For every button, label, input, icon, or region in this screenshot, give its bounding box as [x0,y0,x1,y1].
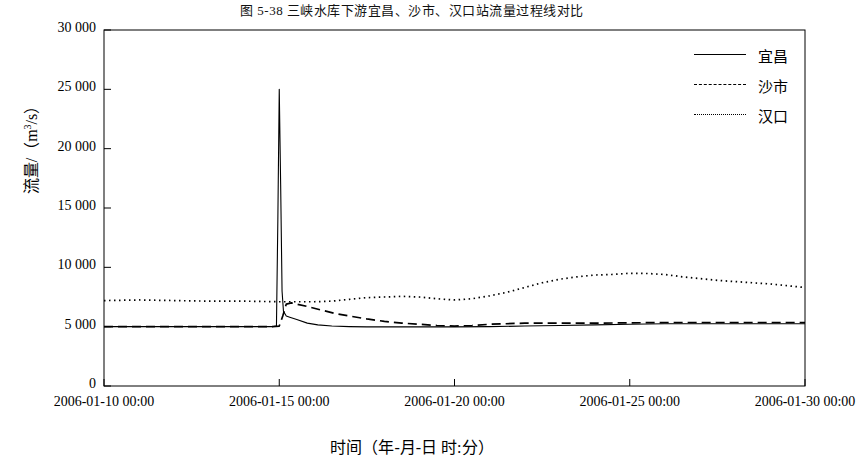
legend-label-0: 宜昌 [758,45,788,66]
x-tick-label-0: 2006-01-10 00:00 [19,394,189,410]
legend-line-sample-solid [694,49,746,61]
y-tick-label-3: 15 000 [26,198,96,214]
y-tick-label-6: 30 000 [26,20,96,36]
legend-item-0: 宜昌 [694,40,788,70]
chart-plot-area: 流量/（m3/s） 宜昌 沙市 汉口 05 00010 00015 00020 … [0,14,824,404]
x-tick-label-3: 2006-01-25 00:00 [545,394,715,410]
x-tick-label-4: 2006-01-30 00:00 [720,394,860,410]
y-tick-label-0: 0 [26,376,96,392]
legend-label-1: 沙市 [758,75,788,96]
x-tick-label-1: 2006-01-15 00:00 [194,394,364,410]
legend-line-sample-dotted [694,109,746,121]
legend-item-1: 沙市 [694,70,788,100]
legend-line-sample-dashed [694,79,746,91]
legend-label-2: 汉口 [758,105,788,126]
y-tick-label-5: 25 000 [26,79,96,95]
chart-legend: 宜昌 沙市 汉口 [694,40,788,130]
y-tick-label-4: 20 000 [26,139,96,155]
series-line-1 [104,303,805,327]
x-tick-label-2: 2006-01-20 00:00 [370,394,540,410]
legend-item-2: 汉口 [694,100,788,130]
series-line-2 [104,273,805,301]
y-tick-label-1: 5 000 [26,317,96,333]
x-axis-title: 时间（年-月-日 时:分） [0,434,824,458]
y-tick-label-2: 10 000 [26,257,96,273]
